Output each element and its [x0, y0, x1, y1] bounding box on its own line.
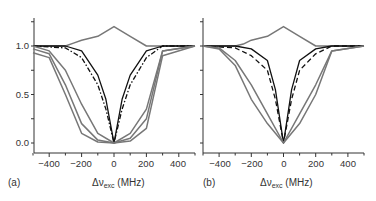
y-tick-label-0-0: 0.0 — [16, 137, 29, 148]
y-tick-label-1-0: 1.0 — [16, 40, 29, 51]
x-tick-label-a-neg400: −400 — [38, 158, 59, 169]
series-gray-broad-2 — [203, 46, 364, 143]
y-tick-label-0-5: 0.5 — [16, 89, 29, 100]
panel-label-a: (a) — [8, 177, 20, 188]
series-gray-peak — [203, 27, 364, 46]
panel-a-chart — [31, 18, 195, 157]
series-gray-broad-1 — [33, 46, 195, 143]
x-tick-label-a-400: 400 — [170, 158, 186, 169]
series-gray-broad-1 — [203, 46, 364, 143]
series-black-dashed — [203, 46, 364, 143]
x-tick-label-a-neg200: −200 — [70, 158, 91, 169]
series-gray-peak — [33, 27, 195, 46]
x-tick-label-b-neg200: −200 — [241, 158, 262, 169]
figure: 1.0 0.5 0.0 −400 −200 0 200 400 (a) Δνex… — [0, 0, 376, 201]
x-tick-label-b-400: 400 — [340, 158, 356, 169]
x-tick-label-b-0: 0 — [281, 158, 286, 169]
x-axis-label-b: Δνexc (MHz) — [260, 177, 313, 189]
x-tick-label-a-0: 0 — [111, 158, 116, 169]
panel-label-b: (b) — [203, 177, 215, 188]
x-tick-label-b-neg400: −400 — [209, 158, 230, 169]
x-axis-label-a: Δνexc (MHz) — [92, 177, 145, 189]
panel-b-chart — [200, 18, 364, 157]
x-tick-label-a-200: 200 — [138, 158, 154, 169]
x-tick-label-b-200: 200 — [308, 158, 324, 169]
series-black-narrow — [203, 46, 364, 143]
